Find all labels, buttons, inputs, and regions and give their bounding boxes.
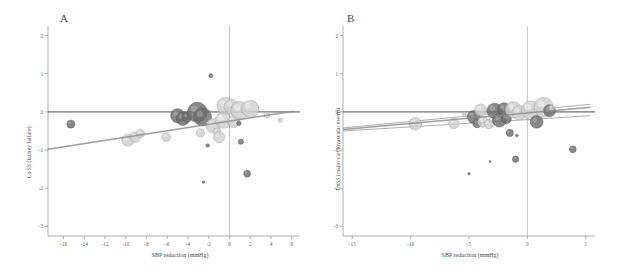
x-tick-label: -8 — [144, 241, 149, 247]
panel-b: B LnSS (major cardiovascular events) SBP… — [315, 0, 622, 276]
y-tick-label: 1 — [40, 71, 43, 77]
meta-regression-figure: A Ln SS (kidney failure) SBP reduction (… — [0, 0, 622, 276]
y-tick-label: 2 — [335, 33, 338, 39]
x-tick-label: -12 — [102, 241, 109, 247]
data-bubble — [489, 161, 491, 163]
x-tick-label: 0 — [526, 241, 529, 247]
y-tick-label: -3 — [334, 223, 339, 229]
panel-a-plot-area: 210-1-2-3-16-14-12-10-8-6-4-20246 — [0, 0, 315, 276]
x-tick-label: -10 — [407, 241, 414, 247]
data-bubble — [242, 100, 259, 117]
x-tick-label: 2 — [249, 241, 252, 247]
panel-b-plot-area: 210-1-2-3-15-10-505 — [315, 0, 622, 276]
data-bubble — [530, 115, 543, 128]
x-tick-label: 0 — [228, 241, 231, 247]
data-bubble — [162, 133, 171, 142]
x-tick-label: 5 — [584, 241, 587, 247]
y-tick-label: 2 — [40, 33, 43, 39]
data-bubble — [512, 156, 518, 162]
x-tick-label: -10 — [122, 241, 129, 247]
data-bubble — [214, 132, 225, 143]
data-bubble — [244, 170, 251, 177]
y-tick-label: 0 — [335, 109, 338, 115]
data-bubble — [569, 146, 576, 153]
x-tick-label: -16 — [60, 241, 67, 247]
y-tick-label: -3 — [39, 223, 44, 229]
y-tick-label: 0 — [40, 109, 43, 115]
data-bubble — [67, 120, 75, 128]
data-bubble — [468, 173, 470, 175]
x-tick-label: -5 — [467, 241, 472, 247]
data-bubble — [278, 118, 282, 122]
data-bubble — [237, 121, 241, 125]
panel-a: A Ln SS (kidney failure) SBP reduction (… — [0, 0, 315, 276]
x-tick-label: -14 — [81, 241, 88, 247]
y-tick-label: -2 — [334, 185, 339, 191]
data-bubble — [202, 181, 204, 183]
y-tick-label: 1 — [335, 71, 338, 77]
data-bubble — [196, 129, 204, 137]
x-tick-label: 6 — [290, 241, 293, 247]
y-tick-label: -2 — [39, 185, 44, 191]
y-tick-label: -1 — [334, 147, 339, 153]
data-bubble — [238, 139, 243, 144]
data-bubble — [462, 112, 466, 116]
x-tick-label: -4 — [186, 241, 191, 247]
y-tick-label: -1 — [39, 147, 44, 153]
x-tick-label: -2 — [207, 241, 212, 247]
data-bubble — [515, 134, 518, 137]
data-bubble — [206, 144, 210, 148]
data-bubble — [506, 129, 513, 136]
data-bubble — [209, 74, 213, 78]
x-tick-label: 4 — [270, 241, 273, 247]
data-bubble — [136, 129, 144, 137]
x-tick-label: -6 — [165, 241, 170, 247]
data-bubble — [475, 104, 487, 116]
x-tick-label: -15 — [349, 241, 356, 247]
